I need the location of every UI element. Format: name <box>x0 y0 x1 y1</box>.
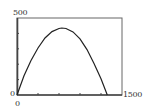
x-max-label: 1500 <box>123 91 142 99</box>
y-max-label: 500 <box>13 9 27 17</box>
x-min-label: 0 <box>15 100 20 108</box>
y-min-label: 0 <box>10 90 15 98</box>
data-curve <box>17 28 107 95</box>
